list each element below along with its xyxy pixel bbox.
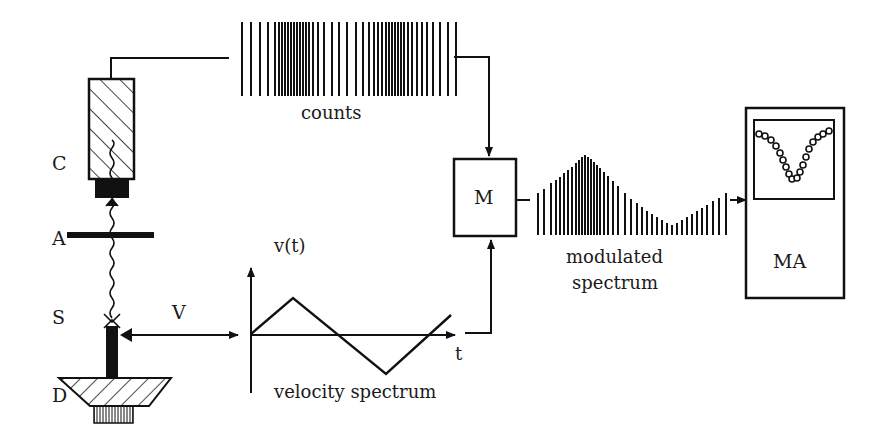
label-absorber: A	[52, 229, 66, 248]
velocity-spectrum-plot	[251, 268, 455, 393]
drive-unit	[59, 378, 171, 423]
label-counter: C	[52, 154, 67, 173]
source-rod	[104, 314, 120, 378]
modulated-spectrum-bars	[538, 155, 726, 235]
label-velocity: V	[172, 303, 186, 322]
counter-detector	[89, 58, 229, 198]
velocity-to-m-line	[465, 240, 491, 333]
label-modulator: M	[474, 188, 493, 207]
label-modulated-line2: spectrum	[572, 274, 658, 292]
label-analyzer: MA	[773, 252, 806, 271]
label-velocity-spectrum: velocity spectrum	[274, 383, 436, 401]
label-source: S	[52, 308, 65, 327]
label-vt-axis: v(t)	[274, 237, 305, 255]
diagram-canvas: C A S D V counts M modulated spectrum MA…	[0, 0, 870, 441]
label-modulated-line1: modulated	[566, 248, 663, 266]
diagram-svg	[0, 0, 870, 441]
absorber-plate	[67, 232, 154, 238]
label-t-axis: t	[455, 345, 462, 363]
counts-to-m-line	[454, 57, 489, 156]
label-drive: D	[52, 386, 67, 405]
label-counts: counts	[301, 104, 362, 122]
counts-pulse-train	[242, 22, 456, 96]
velocity-arrow	[120, 328, 238, 342]
